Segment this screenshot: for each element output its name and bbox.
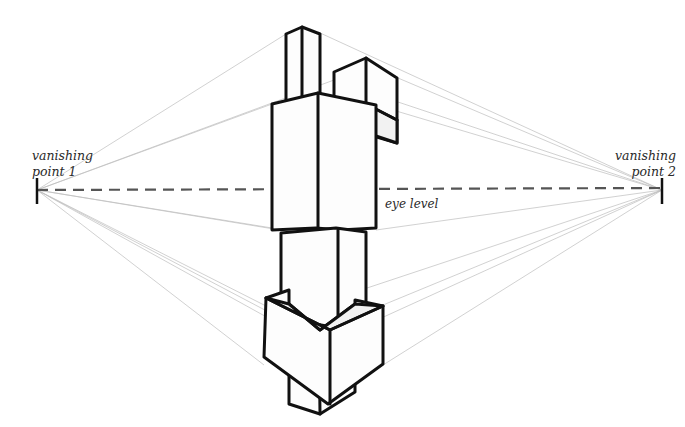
vanishing-point-1-label: vanishing point 1 [32, 148, 93, 180]
vp2-label-line1: vanishing [612, 148, 676, 164]
vp2-label-line2: point 2 [612, 164, 676, 180]
vanishing-point-2-label: vanishing point 2 [612, 148, 676, 180]
vp1-label-line1: vanishing [32, 148, 93, 164]
perspective-drawing [0, 0, 685, 427]
large-box-upper [272, 93, 376, 230]
eye-level-label: eye level [385, 196, 438, 212]
vp1-label-line2: point 1 [32, 164, 93, 180]
